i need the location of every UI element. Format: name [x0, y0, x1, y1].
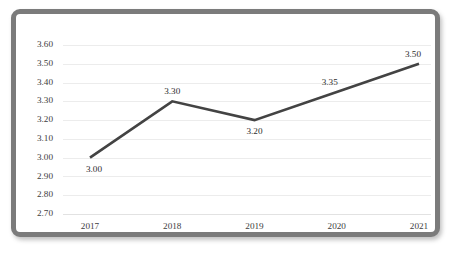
- x-axis-tick-label: 2021: [410, 221, 429, 231]
- y-axis-tick-label: 2.90: [37, 171, 53, 181]
- data-series-group: [90, 64, 419, 158]
- y-axis-tick-label: 3.60: [37, 39, 53, 49]
- y-axis-tick-label: 3.20: [37, 114, 53, 124]
- data-point-label: 3.00: [86, 164, 102, 174]
- chart-card: 3.603.503.403.303.203.103.002.902.802.70…: [11, 9, 440, 237]
- data-point-label: 3.20: [246, 126, 262, 136]
- y-axis-tick-label: 3.00: [37, 152, 53, 162]
- data-point-label: 3.35: [322, 77, 338, 87]
- y-axis-tick-label: 3.50: [37, 58, 53, 68]
- x-axis-tick-label: 2017: [81, 221, 100, 231]
- y-axis-tick-label: 2.70: [37, 208, 53, 218]
- data-point-label: 3.50: [405, 49, 421, 59]
- y-axis-labels-group: 3.603.503.403.303.203.103.002.902.802.70: [37, 39, 53, 218]
- chart-plot-area: 3.603.503.403.303.203.103.002.902.802.70…: [16, 14, 435, 232]
- series-line: [90, 64, 419, 158]
- x-axis-tick-label: 2018: [163, 221, 182, 231]
- data-point-labels-group: 3.003.303.203.353.50: [86, 49, 421, 174]
- x-axis-tick-label: 2020: [328, 221, 347, 231]
- y-axis-tick-label: 3.30: [37, 95, 53, 105]
- y-axis-tick-label: 3.10: [37, 133, 53, 143]
- y-axis-tick-label: 3.40: [37, 77, 53, 87]
- y-axis-tick-label: 2.80: [37, 189, 53, 199]
- x-axis-tick-label: 2019: [245, 221, 264, 231]
- data-point-label: 3.30: [164, 86, 180, 96]
- line-chart: 3.603.503.403.303.203.103.002.902.802.70…: [16, 14, 435, 232]
- x-axis-labels-group: 20172018201920202021: [81, 221, 429, 231]
